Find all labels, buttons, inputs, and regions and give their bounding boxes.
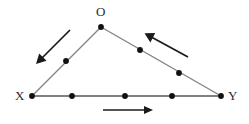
vertex-label-x: X (15, 89, 24, 102)
vertex-label-y: Y (228, 89, 237, 102)
figure-canvas (0, 0, 249, 124)
point-on-edge-ox-1 (63, 58, 69, 64)
point-vertex-Y (218, 93, 224, 99)
point-on-edge-oy-1 (137, 47, 143, 53)
point-on-edge-oy-2 (176, 70, 182, 76)
triangle-edges (32, 27, 221, 96)
point-vertex-O (98, 24, 104, 30)
point-on-edge-xy-2 (122, 93, 128, 99)
vertex-label-o: O (96, 5, 105, 18)
geometry-figure: O X Y (0, 0, 249, 124)
arrow-up-left-icon (145, 33, 189, 57)
point-on-edge-xy-1 (69, 93, 75, 99)
edge-OY (101, 27, 221, 96)
marked-points (29, 24, 224, 99)
point-on-edge-xy-3 (169, 93, 175, 99)
arrow-right-icon (103, 106, 153, 114)
direction-arrows (36, 30, 188, 114)
point-vertex-X (29, 93, 35, 99)
